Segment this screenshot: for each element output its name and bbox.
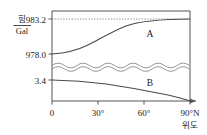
curve-label-b: B (147, 78, 153, 88)
x-tick-label-60: 60° (138, 108, 151, 118)
y-axis-unit-denominator: Gal (16, 26, 29, 36)
chart-svg: 힘 Gal 983.2 978.0 3.4 0 30° 60° 90°N 위도 … (0, 0, 207, 135)
x-tick-label-0: 0 (50, 108, 55, 118)
curve-label-a: A (147, 29, 154, 39)
x-axis-title: 위도 (182, 120, 198, 130)
y-tick-label-983-2: 983.2 (26, 15, 46, 25)
x-tick-label-30: 30° (92, 108, 105, 118)
y-tick-label-978-0: 978.0 (26, 50, 47, 60)
x-tick-label-90n: 90°N (180, 108, 200, 118)
gravity-latitude-figure: 힘 Gal 983.2 978.0 3.4 0 30° 60° 90°N 위도 … (0, 0, 207, 135)
y-tick-label-3-4: 3.4 (35, 76, 47, 86)
